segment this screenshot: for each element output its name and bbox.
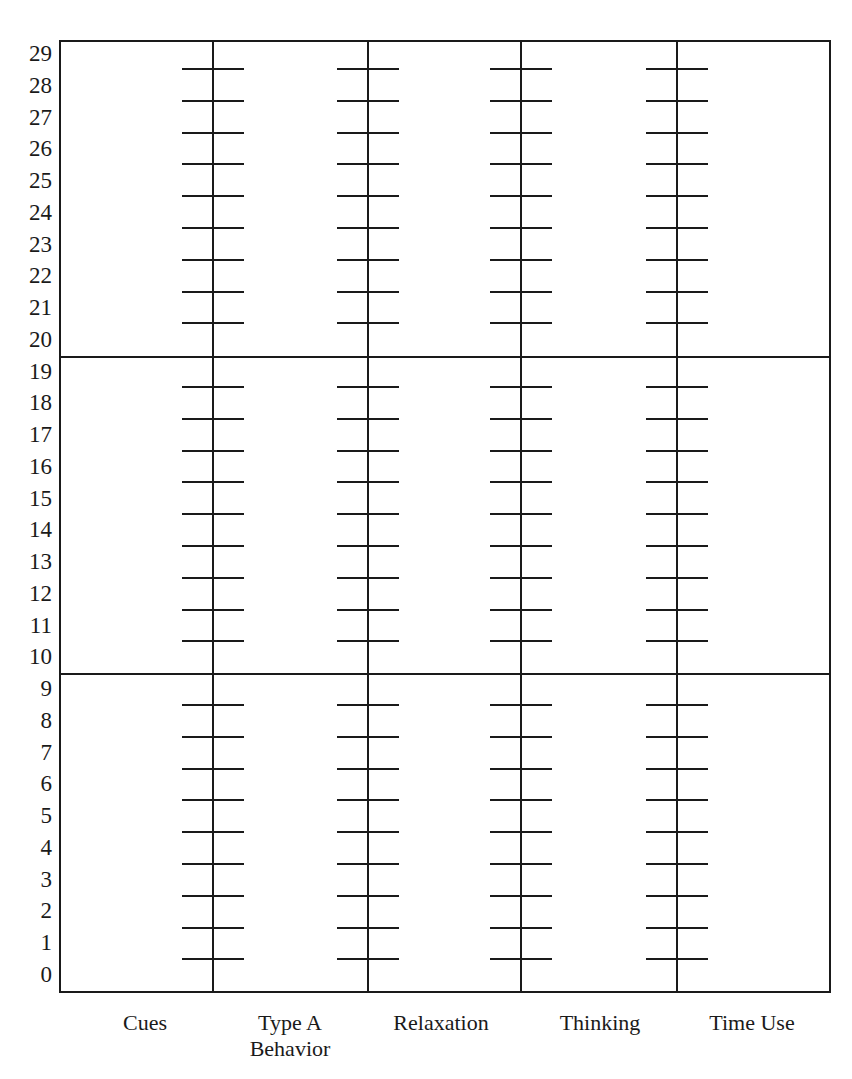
tick-mark [646,513,708,515]
tick-mark [337,513,399,515]
tick-mark [182,386,244,388]
tick-mark [646,132,708,134]
tick-mark [182,132,244,134]
divider-9-10 [59,673,831,675]
tick-mark [490,195,552,197]
tick-mark [337,895,399,897]
y-label: 27 [14,106,52,130]
tick-mark [490,450,552,452]
x-label-type-a-behavior: Type A Behavior [238,1010,342,1062]
tick-mark [337,704,399,706]
tick-mark [490,322,552,324]
tick-mark [490,100,552,102]
y-label: 8 [14,709,52,733]
tick-mark [646,799,708,801]
y-label: 4 [14,836,52,860]
y-label: 5 [14,804,52,828]
tick-mark [646,609,708,611]
tick-mark [646,640,708,642]
tick-mark [646,68,708,70]
x-label-text: Type A [238,1010,342,1036]
tick-mark [646,195,708,197]
y-label: 9 [14,677,52,701]
tick-mark [337,418,399,420]
tick-mark [337,577,399,579]
y-label: 20 [14,328,52,352]
tick-mark [490,163,552,165]
tick-mark [337,163,399,165]
tick-mark [182,163,244,165]
scale-line-1 [212,40,214,993]
y-label: 18 [14,391,52,415]
y-label: 0 [14,963,52,987]
y-label: 19 [14,360,52,384]
tick-mark [490,386,552,388]
tick-mark [337,609,399,611]
y-label: 24 [14,201,52,225]
tick-mark [182,100,244,102]
tick-mark [337,291,399,293]
y-label: 15 [14,487,52,511]
x-label-thinking: Thinking [545,1010,655,1036]
tick-mark [490,736,552,738]
tick-mark [182,513,244,515]
tick-mark [646,863,708,865]
tick-mark [337,386,399,388]
y-label: 21 [14,296,52,320]
tick-mark [490,704,552,706]
tick-mark [490,863,552,865]
y-label: 11 [14,614,52,638]
tick-mark [646,704,708,706]
tick-mark [182,418,244,420]
tick-mark [182,704,244,706]
x-label-relaxation: Relaxation [380,1010,502,1036]
x-label-text: Cues [105,1010,185,1036]
tick-mark [337,450,399,452]
y-label: 12 [14,582,52,606]
tick-mark [490,481,552,483]
tick-mark [646,895,708,897]
tick-mark [337,100,399,102]
x-label-text: Relaxation [380,1010,502,1036]
y-label: 28 [14,74,52,98]
tick-mark [646,481,708,483]
tick-mark [337,195,399,197]
tick-mark [337,736,399,738]
tick-mark [337,481,399,483]
y-label: 26 [14,137,52,161]
tick-mark [490,227,552,229]
y-label: 14 [14,518,52,542]
tick-mark [182,863,244,865]
tick-mark [490,640,552,642]
tick-mark [182,259,244,261]
tick-mark [490,68,552,70]
chart-frame [59,40,831,993]
tick-mark [646,418,708,420]
tick-mark [490,609,552,611]
tick-mark [337,259,399,261]
tick-mark [646,958,708,960]
tick-mark [646,386,708,388]
tick-mark [182,322,244,324]
tick-mark [182,768,244,770]
tick-mark [646,927,708,929]
tick-mark [182,736,244,738]
x-label-cues: Cues [105,1010,185,1036]
tick-mark [490,895,552,897]
y-label: 23 [14,233,52,257]
tick-mark [182,577,244,579]
tick-mark [337,768,399,770]
tick-mark [646,227,708,229]
tick-mark [182,68,244,70]
x-label-time-use: Time Use [694,1010,810,1036]
tick-mark [646,577,708,579]
tick-mark [182,227,244,229]
y-label: 22 [14,264,52,288]
y-label: 25 [14,169,52,193]
tick-mark [646,736,708,738]
x-label-text-2: Behavior [238,1036,342,1062]
tick-mark [337,927,399,929]
tick-mark [337,227,399,229]
scale-line-4 [676,40,678,993]
y-label: 10 [14,645,52,669]
